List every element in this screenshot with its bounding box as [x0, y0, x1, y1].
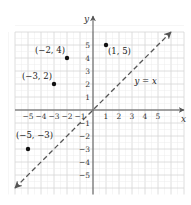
x-tick-label: 3: [130, 112, 135, 121]
y-tick-label: −5: [79, 171, 90, 180]
point-label: (−5, −3): [16, 130, 53, 140]
x-axis-label: x: [181, 114, 186, 124]
x-tick-label: 4: [143, 112, 148, 121]
data-point: [65, 56, 69, 60]
point-label: (−2, 4): [35, 45, 65, 55]
line-label: y = x: [134, 76, 157, 86]
y-tick-label: 3: [85, 67, 90, 76]
x-tick-label: 2: [117, 112, 122, 121]
y-tick-label: 5: [85, 41, 90, 50]
y-tick-label: −4: [79, 158, 90, 167]
x-tick-label: −2: [61, 112, 72, 121]
x-tick-label: 1: [104, 112, 109, 121]
coordinate-plane: −5−4−3−2−112345−5−4−3−2−112345 y = x (−2…: [0, 0, 191, 205]
point-label: (1, 5): [108, 46, 131, 56]
y-tick-label: −1: [79, 119, 90, 128]
y-tick-label: 4: [85, 54, 90, 63]
y-tick-label: 1: [85, 93, 90, 102]
data-point: [26, 147, 30, 151]
y-axis-label: y: [83, 14, 90, 24]
data-point: [52, 82, 56, 86]
x-tick-label: −4: [35, 112, 46, 121]
x-tick-label: −3: [48, 112, 59, 121]
x-tick-label: 5: [156, 112, 161, 121]
y-tick-label: −3: [79, 145, 90, 154]
y-tick-label: 2: [85, 80, 90, 89]
x-tick-label: −5: [22, 112, 33, 121]
point-label: (−3, 2): [22, 71, 52, 81]
y-tick-label: −2: [79, 132, 90, 141]
